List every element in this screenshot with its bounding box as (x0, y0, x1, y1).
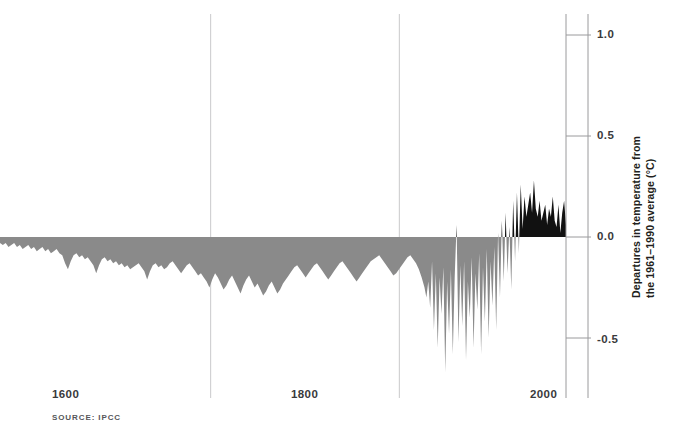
y-tick-label-3: 0.0 (597, 230, 614, 242)
y-tick-label-1: 1.0 (597, 28, 614, 40)
source-note: SOURCE: IPCC (52, 413, 121, 422)
y-axis-title: Departures in temperature fromthe 1961–1… (629, 108, 657, 298)
x-tick-label-2000: 2000 (530, 388, 557, 400)
y-axis-title-line1: Departures in temperature from (630, 136, 642, 298)
x-tick-label-1800: 1800 (291, 388, 318, 400)
chart-plot-area (0, 0, 681, 446)
y-tick-label-2: 0.5 (597, 129, 614, 141)
negative-anomaly-area (0, 237, 519, 372)
y-axis-title-line2: the 1961–1990 average (°C) (644, 159, 656, 298)
anomaly-area-series (0, 180, 566, 372)
y-tick-label-4: -0.5 (597, 333, 618, 345)
temperature-anomaly-chart: 1.0 0.5 0.0 -0.5 1600 1800 2000 Departur… (0, 0, 681, 446)
positive-anomaly-area (456, 180, 566, 237)
x-tick-label-1600: 1600 (52, 388, 79, 400)
tick-marks (566, 35, 591, 338)
